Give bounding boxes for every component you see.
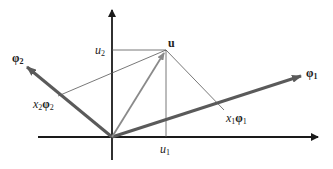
x1phi1-label: x1φ1 (226, 112, 247, 126)
u-vector (112, 53, 164, 137)
x2phi2-label: x2φ2 (33, 98, 54, 112)
u2-label: u2 (95, 44, 105, 58)
phi1-label: φ1 (306, 67, 318, 81)
projection-line-phi1 (166, 50, 224, 110)
phi2-label: φ2 (12, 52, 24, 66)
u1-label: u1 (160, 143, 170, 157)
u-label: u (168, 37, 175, 49)
phi1-vector (112, 76, 301, 137)
